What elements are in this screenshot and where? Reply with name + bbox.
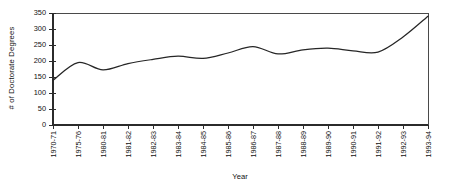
data-series-line: [53, 16, 428, 80]
x-tick-label-1993-94: 1993-94: [424, 131, 433, 157]
x-tick-label-1985-86: 1985-86: [224, 131, 233, 157]
y-tick-label-200: 200: [34, 56, 46, 65]
x-tick-label-1991-92: 1991-92: [374, 131, 383, 157]
x-axis-title: Year: [232, 172, 248, 181]
x-tick-label-1981-82: 1981-82: [124, 131, 133, 157]
y-axis-tick-labels: 350 300 250 200 150 100 50 0: [34, 8, 46, 129]
y-tick-label-350: 350: [34, 8, 46, 17]
x-axis-tick-labels: 1970-711975-761980-811981-821982-831983-…: [49, 131, 433, 157]
y-axis-title: # of Doctorate Degrees: [7, 27, 16, 110]
x-tick-label-1984-85: 1984-85: [199, 131, 208, 157]
x-tick-label-1983-84: 1983-84: [174, 131, 183, 157]
y-tick-label-300: 300: [34, 24, 46, 33]
chart-canvas: 350 300 250 200 150 100 50 0 1970-711975…: [0, 0, 451, 186]
x-tick-label-1986-87: 1986-87: [249, 131, 258, 157]
x-tick-label-1980-81: 1980-81: [99, 131, 108, 157]
x-tick-label-1989-90: 1989-90: [324, 131, 333, 157]
x-tick-label-1988-89: 1988-89: [299, 131, 308, 157]
x-axis-ticks: [53, 125, 428, 129]
x-tick-label-1975-76: 1975-76: [74, 131, 83, 157]
x-tick-label-1992-93: 1992-93: [399, 131, 408, 157]
y-tick-label-50: 50: [38, 104, 46, 113]
x-tick-label-1982-83: 1982-83: [149, 131, 158, 157]
y-tick-label-250: 250: [34, 40, 46, 49]
y-tick-label-100: 100: [34, 88, 46, 97]
x-tick-label-1990-91: 1990-91: [349, 131, 358, 157]
x-tick-label-1987-88: 1987-88: [274, 131, 283, 157]
y-tick-label-0: 0: [42, 120, 46, 129]
x-tick-label-1970-71: 1970-71: [49, 131, 58, 157]
doctorate-degrees-line-chart: 350 300 250 200 150 100 50 0 1970-711975…: [0, 0, 451, 186]
y-tick-label-150: 150: [34, 72, 46, 81]
